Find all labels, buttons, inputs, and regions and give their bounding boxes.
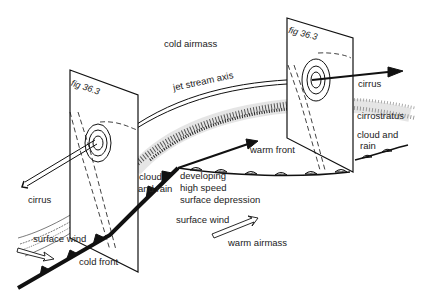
developing-label-3: surface depression [180,194,260,205]
warm-front-label: warm front [250,144,295,155]
depression-track-arrow [178,139,258,168]
right-cross-section-plane [287,18,353,172]
cold-front-label: cold front [79,256,118,267]
surface-wind-left-label: surface wind [33,233,86,244]
cirrus-right-label: cirrus [358,78,381,89]
cold-airmass-label: cold airmass [164,38,217,49]
developing-label-1: developing [180,170,226,181]
developing-label-2: high speed [180,182,226,193]
cirrus-left-label: cirrus [28,194,51,205]
cirrostratus-label: cirrostratus [357,110,404,121]
cloud-and-rain-left-label-1: cloud [139,171,162,182]
warm-airmass-label: warm airmass [228,237,287,248]
cloud-and-rain-right-label-1: cloud and [357,129,398,140]
cloud-and-rain-right-label-2: rain [360,140,376,151]
weather-diagram: cold airmass jet stream axis fig 36.3 fi… [0,0,424,296]
surface-wind-center-label: surface wind [176,214,229,225]
cloud-and-rain-left-label-2: and rain [138,183,172,194]
surface-wind-arrow-left [17,248,54,261]
